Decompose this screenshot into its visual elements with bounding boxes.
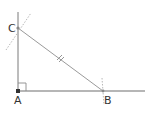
point-b bbox=[102, 90, 105, 93]
point-c bbox=[16, 26, 19, 29]
label-c: C bbox=[8, 22, 16, 35]
triangle-diagram: C A B bbox=[0, 0, 151, 114]
point-a bbox=[16, 89, 20, 93]
hypotenuse-cb bbox=[18, 28, 103, 91]
label-a: A bbox=[14, 94, 22, 107]
label-b: B bbox=[104, 94, 112, 107]
